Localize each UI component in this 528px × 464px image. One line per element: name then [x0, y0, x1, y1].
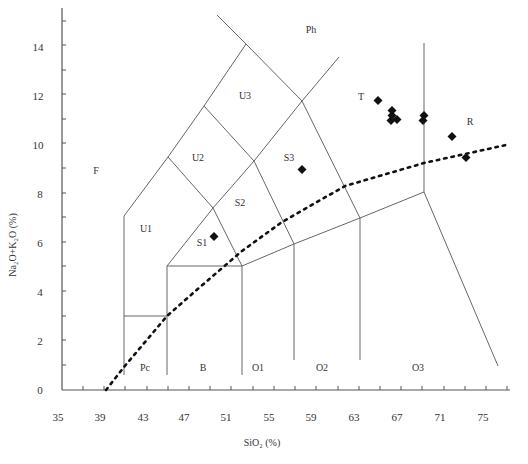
- field-labels: Ph U3 U2 S3 T R F S2 U1 S1 Pc B O1 O2 O3: [93, 24, 473, 373]
- field-label-pc: Pc: [140, 362, 151, 373]
- field-label-t: T: [358, 91, 364, 102]
- x-axis-title: SiO₂ (%): [244, 437, 281, 449]
- y-tick-8: 8: [37, 188, 43, 200]
- y-tick-2: 2: [37, 335, 43, 347]
- x-tick-63: 63: [349, 411, 361, 423]
- y-tick-12: 12: [33, 90, 44, 102]
- tas-diagram: 0 2 4 6 8 10 12 14 35 39 43 47 51 55 59 …: [0, 0, 528, 464]
- field-label-s2: S2: [235, 197, 246, 208]
- x-tick-35: 35: [53, 411, 65, 423]
- boundary-u1-u2-s1: [168, 157, 242, 266]
- y-tick-4: 4: [37, 286, 43, 298]
- data-point-diamond: [448, 132, 457, 141]
- x-tick-43: 43: [138, 411, 150, 423]
- x-tick-67: 67: [392, 411, 404, 423]
- x-tick-labels: 35 39 43 47 51 55 59 63 67 71 75: [53, 411, 490, 423]
- field-label-o1: O1: [252, 362, 264, 373]
- boundary-o-top: [242, 192, 424, 266]
- x-tick-51: 51: [221, 411, 232, 423]
- x-tick-59: 59: [306, 411, 318, 423]
- boundary-o3-r: [424, 192, 498, 366]
- sample-points: [210, 96, 471, 241]
- x-tick-71: 71: [435, 411, 446, 423]
- boundary-left-outer: [124, 44, 246, 375]
- y-tick-labels: 0 2 4 6 8 10 12 14: [33, 41, 45, 396]
- data-point-diamond: [374, 96, 383, 105]
- y-axis-title: Na₂O+K₂O (%): [7, 213, 19, 276]
- field-label-f: F: [93, 165, 99, 176]
- y-tick-14: 14: [33, 41, 45, 53]
- y-tick-6: 6: [37, 237, 43, 249]
- x-tick-39: 39: [95, 411, 107, 423]
- alkaline-divide-curve: [106, 145, 506, 390]
- data-point-diamond: [210, 232, 219, 241]
- field-label-s1: S1: [197, 237, 208, 248]
- field-label-u3: U3: [239, 90, 251, 101]
- field-label-ph: Ph: [306, 24, 317, 35]
- y-tick-10: 10: [33, 139, 45, 151]
- field-label-s3: S3: [284, 152, 295, 163]
- x-tick-75: 75: [478, 411, 490, 423]
- boundary-ph-s3: [217, 15, 360, 218]
- field-label-o2: O2: [316, 362, 328, 373]
- tas-plot-svg: 0 2 4 6 8 10 12 14 35 39 43 47 51 55 59 …: [0, 0, 528, 464]
- axes: [62, 8, 510, 390]
- y-tick-0: 0: [37, 384, 43, 396]
- x-tick-47: 47: [179, 411, 191, 423]
- boundary-b: [167, 266, 242, 375]
- field-boundaries: [124, 15, 498, 375]
- field-label-u2: U2: [192, 152, 204, 163]
- field-label-r: R: [467, 116, 474, 127]
- field-label-u1: U1: [140, 223, 152, 234]
- data-point-diamond: [298, 165, 307, 174]
- boundary-s-diagonal: [213, 57, 339, 208]
- field-label-o3: O3: [412, 362, 424, 373]
- x-tick-55: 55: [264, 411, 276, 423]
- field-label-b: B: [200, 362, 207, 373]
